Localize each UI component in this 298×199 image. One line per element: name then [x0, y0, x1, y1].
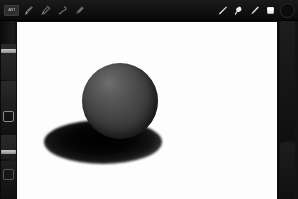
- drawing-canvas[interactable]: [17, 22, 277, 199]
- panel-icon[interactable]: [280, 21, 295, 141]
- sphere-grain-overlay: [82, 63, 158, 139]
- fill-square-icon[interactable]: [263, 3, 278, 18]
- toolbar-right-group: [215, 3, 298, 18]
- top-toolbar: ART: [0, 0, 298, 21]
- sidebar-item-opacity-slider[interactable]: [1, 81, 16, 105]
- artwork-shaded-sphere: [17, 22, 277, 199]
- blender-icon[interactable]: [231, 3, 246, 18]
- brush-icon[interactable]: [21, 3, 36, 18]
- sidebar-item-lower-slider[interactable]: [1, 135, 16, 159]
- size-slider-thumb[interactable]: [1, 49, 16, 53]
- layers-icon[interactable]: [3, 169, 14, 180]
- color-ring-icon[interactable]: [280, 3, 295, 18]
- pen-icon[interactable]: [38, 3, 53, 18]
- square-outline-icon[interactable]: [3, 111, 14, 122]
- sphere-shape: [82, 63, 158, 139]
- app-window: ART: [0, 0, 298, 199]
- smudge-icon[interactable]: [55, 3, 70, 18]
- app-logo-badge[interactable]: ART: [4, 5, 19, 16]
- options-icon[interactable]: [280, 143, 295, 199]
- lower-slider-thumb[interactable]: [1, 150, 16, 154]
- right-toolbar-rail: [277, 21, 298, 199]
- sidebar-layers-panel: [1, 161, 16, 199]
- marker-icon[interactable]: [247, 3, 262, 18]
- app-logo-label: ART: [8, 8, 15, 12]
- pencil-icon[interactable]: [215, 3, 230, 18]
- toolbar-left-group: ART: [0, 3, 87, 18]
- left-toolbar-rail: [0, 21, 17, 199]
- eraser-icon[interactable]: [72, 3, 87, 18]
